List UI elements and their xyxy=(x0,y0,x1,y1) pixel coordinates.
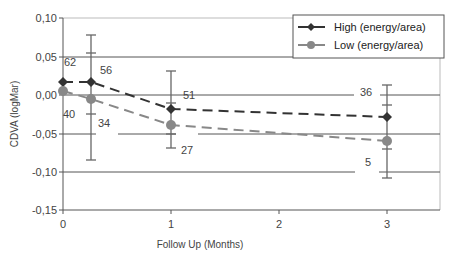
x-axis-title: Follow Up (Months) xyxy=(157,239,244,250)
n-label-high: 56 xyxy=(100,64,112,76)
gridlines xyxy=(63,57,440,172)
n-label-low: 27 xyxy=(181,144,193,156)
series-high-markers xyxy=(58,77,392,122)
y-tick-label: -0,10 xyxy=(32,166,57,178)
diamond-marker xyxy=(382,112,392,122)
x-tick-label: 0 xyxy=(60,218,66,230)
n-label-high: 62 xyxy=(64,56,76,68)
x-tick-label: 1 xyxy=(168,218,174,230)
n-label-low: 40 xyxy=(63,108,75,120)
diamond-marker xyxy=(166,104,176,114)
y-tick-label: -0,15 xyxy=(32,204,57,216)
circle-marker xyxy=(166,120,176,130)
series-high-line xyxy=(63,82,387,117)
error-bars-month-3 xyxy=(382,85,392,178)
legend-item-high: High (energy/area) xyxy=(334,21,426,33)
x-tick-label: 2 xyxy=(276,218,282,230)
circle-icon xyxy=(307,41,315,49)
n-label-low: 5 xyxy=(365,156,371,168)
legend-item-low: Low (energy/area) xyxy=(334,39,423,51)
y-tick-label: -0,05 xyxy=(32,128,57,140)
n-label-low: 34 xyxy=(98,117,110,129)
x-tick-marks xyxy=(63,210,387,214)
n-label-high: 36 xyxy=(360,86,372,98)
circle-marker xyxy=(58,86,68,96)
legend: High (energy/area) Low (energy/area) xyxy=(293,15,444,58)
circle-marker xyxy=(86,94,96,104)
x-tick-label: 3 xyxy=(384,218,390,230)
chart: 0,10 0,05 0,00 -0,05 -0,10 -0,15 0 1 2 3… xyxy=(0,0,452,260)
y-tick-label: 0,00 xyxy=(36,89,57,101)
n-label-high: 51 xyxy=(183,89,195,101)
diamond-marker xyxy=(58,77,68,87)
y-axis-title: CDVA (logMar) xyxy=(9,81,20,148)
circle-marker xyxy=(382,136,392,146)
diamond-marker xyxy=(86,77,96,87)
y-tick-label: 0,05 xyxy=(36,51,57,63)
y-tick-label: 0,10 xyxy=(36,12,57,24)
